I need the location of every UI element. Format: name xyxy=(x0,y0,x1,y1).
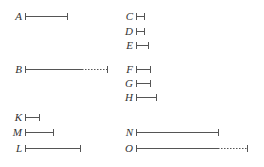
segment-label: F xyxy=(121,63,133,75)
segment-b xyxy=(25,66,108,73)
segment-l xyxy=(25,145,81,152)
segment-label: D xyxy=(121,25,133,37)
segment-e xyxy=(136,42,149,49)
segment-label: N xyxy=(121,126,133,138)
segment-o xyxy=(136,145,248,152)
segment-label: C xyxy=(121,10,133,22)
segment-m xyxy=(25,129,54,136)
segment-h xyxy=(136,94,157,101)
segment-label: G xyxy=(121,77,133,89)
segment-label: E xyxy=(121,39,133,51)
segment-label: A xyxy=(10,10,22,22)
segment-diagram: ABCDEFGHKMLNO xyxy=(0,0,264,167)
segment-g xyxy=(136,80,151,87)
segment-a xyxy=(25,13,68,20)
segment-label: O xyxy=(121,142,133,154)
segment-label: L xyxy=(10,142,22,154)
segment-label: B xyxy=(10,63,22,75)
segment-f xyxy=(136,66,151,73)
segment-label: K xyxy=(10,111,22,123)
segment-label: H xyxy=(121,91,133,103)
segment-n xyxy=(136,129,219,136)
segment-label: M xyxy=(10,126,22,138)
segment-k xyxy=(25,114,40,121)
segment-d xyxy=(136,28,145,35)
segment-c xyxy=(136,13,145,20)
